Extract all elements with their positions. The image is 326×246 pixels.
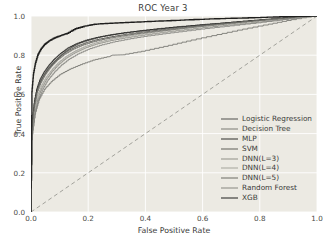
legend-item-svm[interactable]: SVM [221, 144, 324, 154]
legend-item-xgb[interactable]: XGB [221, 193, 324, 203]
y-axis-label: True Positive Rate [14, 46, 23, 156]
x-tick-1.0: 1.0 [302, 214, 326, 223]
legend-item-decision-tree[interactable]: Decision Tree [221, 124, 324, 134]
legend-label-random-forest: Random Forest [238, 183, 297, 193]
legend-item-random-forest[interactable]: Random Forest [221, 183, 324, 193]
legend-label-dnn-l-3: DNN(L=3) [238, 154, 279, 164]
legend: Logistic RegressionDecision TreeMLPSVMDN… [221, 114, 324, 203]
legend-swatch-mlp [221, 134, 238, 143]
x-tick-0.6: 0.6 [188, 214, 218, 223]
legend-item-dnn-l-4[interactable]: DNN(L=4) [221, 163, 324, 173]
y-tick-0.4: 0.4 [3, 130, 25, 139]
y-tick-0.2: 0.2 [3, 169, 25, 178]
chart-title: ROC Year 3 [0, 3, 326, 13]
legend-swatch-dnn-l-5 [221, 174, 238, 183]
legend-item-dnn-l-3[interactable]: DNN(L=3) [221, 154, 324, 164]
legend-item-mlp[interactable]: MLP [221, 134, 324, 144]
legend-label-xgb: XGB [238, 193, 258, 203]
legend-label-mlp: MLP [238, 134, 257, 144]
x-tick-0.4: 0.4 [130, 214, 160, 223]
x-tick-0.0: 0.0 [16, 214, 46, 223]
legend-label-logistic-regression: Logistic Regression [238, 114, 312, 124]
x-tick-0.8: 0.8 [245, 214, 275, 223]
y-tick-1.0: 1.0 [3, 12, 25, 21]
legend-swatch-logistic-regression [221, 114, 238, 123]
legend-label-decision-tree: Decision Tree [238, 124, 291, 134]
roc-chart-figure: ROC Year 3 True Positive Rate False Posi… [0, 0, 326, 246]
legend-label-dnn-l-4: DNN(L=4) [238, 163, 279, 173]
legend-swatch-decision-tree [221, 124, 238, 133]
legend-swatch-xgb [221, 194, 238, 203]
legend-item-dnn-l-5[interactable]: DNN(L=5) [221, 173, 324, 183]
y-tick-0.6: 0.6 [3, 90, 25, 99]
legend-item-logistic-regression[interactable]: Logistic Regression [221, 114, 324, 124]
legend-swatch-dnn-l-3 [221, 154, 238, 163]
legend-label-svm: SVM [238, 144, 258, 154]
legend-swatch-svm [221, 144, 238, 153]
legend-swatch-dnn-l-4 [221, 164, 238, 173]
x-axis-label: False Positive Rate [31, 226, 317, 235]
legend-swatch-random-forest [221, 184, 238, 193]
legend-label-dnn-l-5: DNN(L=5) [238, 173, 279, 183]
x-tick-0.2: 0.2 [73, 214, 103, 223]
y-tick-0.8: 0.8 [3, 51, 25, 60]
